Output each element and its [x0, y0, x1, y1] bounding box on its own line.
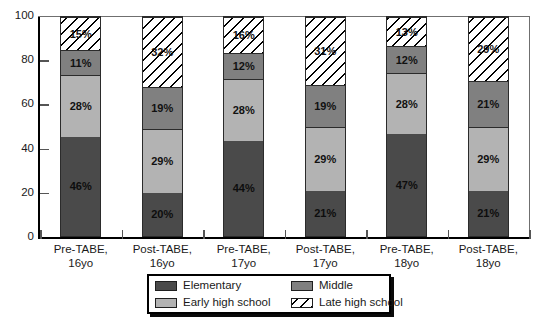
bar-segment-value-label: 19%: [151, 103, 173, 114]
bar-segment-early-high-school[interactable]: 29%: [469, 127, 508, 191]
legend-swatch-late-high-school: [291, 298, 313, 308]
bar-column[interactable]: 47%28%12%13%: [386, 16, 427, 237]
bar-segment-middle[interactable]: 12%: [224, 53, 263, 80]
x-axis-tick-label: Pre-TABE,16yo: [40, 243, 122, 270]
stacked-bar-chart: 020406080100 46%28%11%15%20%29%19%32%44%…: [0, 0, 534, 321]
y-axis-tick-label: 40: [0, 143, 34, 155]
bar-segment-value-label: 29%: [151, 156, 173, 167]
y-axis-tick-mark: [40, 60, 49, 62]
y-axis-tick-labels: 020406080100: [0, 0, 34, 241]
y-axis-tick-label: 80: [0, 54, 34, 66]
bar-column[interactable]: 44%28%12%16%: [223, 16, 264, 237]
bar-column[interactable]: 46%28%11%15%: [60, 16, 101, 237]
x-axis-tick-labels: Pre-TABE,16yoPost-TABE,16yoPre-TABE,17yo…: [40, 243, 529, 273]
plot-right-border: [529, 16, 530, 239]
bar-segment-early-high-school[interactable]: 28%: [61, 75, 100, 136]
bar-segment-middle[interactable]: 19%: [306, 85, 345, 127]
bar-stack: 20%29%19%32%: [142, 16, 183, 237]
bar-segment-value-label: 47%: [396, 180, 418, 191]
bar-segment-value-label: 46%: [70, 181, 92, 192]
legend-item-early-high-school[interactable]: Early high school: [155, 297, 291, 309]
x-axis-tick-mark: [366, 230, 368, 239]
x-axis-tick-label: Post-TABE,18yo: [448, 243, 530, 270]
bar-segment-late-high-school[interactable]: 15%: [61, 17, 100, 50]
x-axis-tick-label-line1: Post-TABE,: [459, 243, 518, 255]
bar-segment-early-high-school[interactable]: 28%: [224, 79, 263, 140]
legend-swatch-early-high-school: [155, 298, 177, 308]
x-axis-tick-label-line1: Pre-TABE,: [217, 243, 271, 255]
bar-segment-early-high-school[interactable]: 28%: [387, 73, 426, 134]
bar-segment-elementary[interactable]: 47%: [387, 134, 426, 236]
bar-segment-value-label: 28%: [233, 105, 255, 116]
bar-segment-value-label: 19%: [314, 101, 336, 112]
x-axis-tick-label: Pre-TABE,18yo: [366, 243, 448, 270]
legend-label: Elementary: [183, 280, 241, 292]
x-axis-tick-mark: [203, 230, 205, 239]
hatch-pattern-icon: [292, 299, 312, 307]
chart-legend: ElementaryMiddleEarly high schoolLate hi…: [147, 274, 391, 314]
bar-stack: 21%29%21%29%: [468, 16, 509, 237]
plot-area: 46%28%11%15%20%29%19%32%44%28%12%16%21%2…: [40, 16, 529, 237]
bar-segment-value-label: 32%: [151, 47, 173, 58]
y-axis-tick-label: 20: [0, 187, 34, 199]
bar-segment-value-label: 16%: [233, 30, 255, 41]
legend-swatch-middle: [291, 281, 313, 291]
legend-item-elementary[interactable]: Elementary: [155, 280, 291, 292]
x-axis-tick-label-line2: 18yo: [448, 257, 530, 271]
bar-stack: 21%29%19%31%: [305, 16, 346, 237]
legend-item-middle[interactable]: Middle: [291, 280, 403, 292]
bar-segment-early-high-school[interactable]: 29%: [306, 127, 345, 191]
bar-column[interactable]: 21%29%19%31%: [305, 16, 346, 237]
bar-segment-elementary[interactable]: 21%: [306, 191, 345, 236]
bar-segment-middle[interactable]: 19%: [143, 87, 182, 129]
bar-segment-late-high-school[interactable]: 32%: [143, 17, 182, 87]
bar-segment-value-label: 12%: [396, 55, 418, 66]
legend-swatch-elementary: [155, 281, 177, 291]
bar-segment-elementary[interactable]: 46%: [61, 137, 100, 236]
bar-segment-value-label: 44%: [233, 183, 255, 194]
bar-segment-value-label: 13%: [396, 27, 418, 38]
bar-segment-late-high-school[interactable]: 16%: [224, 17, 263, 53]
y-axis-tick-mark: [40, 193, 49, 195]
bar-segment-middle[interactable]: 21%: [469, 81, 508, 127]
x-axis-tick-mark: [122, 230, 124, 239]
bar-stack: 47%28%12%13%: [386, 16, 427, 237]
bar-segment-middle[interactable]: 12%: [387, 46, 426, 73]
x-axis-tick-label-line2: 16yo: [122, 257, 204, 271]
bar-segment-late-high-school[interactable]: 31%: [306, 17, 345, 85]
bar-segment-value-label: 28%: [70, 101, 92, 112]
bar-segment-value-label: 29%: [314, 154, 336, 165]
y-axis-tick-mark: [40, 149, 49, 151]
x-axis-tick-label-line2: 17yo: [203, 257, 285, 271]
bar-segment-elementary[interactable]: 20%: [143, 193, 182, 236]
bar-segment-middle[interactable]: 11%: [61, 50, 100, 75]
y-axis-tick-label: 60: [0, 99, 34, 111]
x-axis-tick-label-line2: 18yo: [366, 257, 448, 271]
x-axis-tick-label: Post-TABE,17yo: [285, 243, 367, 270]
x-axis-tick-label-line1: Pre-TABE,: [54, 243, 108, 255]
bar-column[interactable]: 20%29%19%32%: [142, 16, 183, 237]
bar-segment-late-high-school[interactable]: 13%: [387, 17, 426, 46]
legend-label: Early high school: [183, 297, 271, 309]
bar-segment-late-high-school[interactable]: 29%: [469, 17, 508, 81]
legend-item-late-high-school[interactable]: Late high school: [291, 297, 403, 309]
legend-label: Late high school: [319, 297, 403, 309]
bar-segment-value-label: 21%: [314, 208, 336, 219]
x-axis-tick-label: Pre-TABE,17yo: [203, 243, 285, 270]
bar-stack: 44%28%12%16%: [223, 16, 264, 237]
legend-label: Middle: [319, 280, 353, 292]
bar-segment-early-high-school[interactable]: 29%: [143, 129, 182, 193]
bar-segment-value-label: 28%: [396, 99, 418, 110]
bar-column[interactable]: 21%29%21%29%: [468, 16, 509, 237]
x-axis-tick-mark: [285, 230, 287, 239]
bar-segment-elementary[interactable]: 44%: [224, 141, 263, 236]
x-axis-tick-mark: [448, 230, 450, 239]
bar-segment-value-label: 29%: [477, 154, 499, 165]
x-axis-tick-label: Post-TABE,16yo: [122, 243, 204, 270]
y-axis-tick-mark: [40, 104, 49, 106]
x-axis-tick-label-line2: 17yo: [285, 257, 367, 271]
bar-segment-value-label: 21%: [477, 208, 499, 219]
x-axis-tick-label-line1: Post-TABE,: [296, 243, 355, 255]
bar-segment-value-label: 31%: [314, 46, 336, 57]
bar-segment-elementary[interactable]: 21%: [469, 191, 508, 236]
